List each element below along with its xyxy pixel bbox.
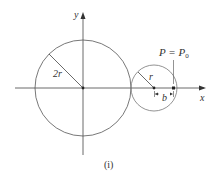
point-label: P = P0 <box>158 46 189 60</box>
x-axis-label: x <box>199 92 205 103</box>
point-subscript: 0 <box>185 52 189 60</box>
offset-label: b <box>162 92 167 103</box>
y-axis-label: y <box>73 9 79 20</box>
small-radius-label: r <box>149 71 153 82</box>
big-radius-label: 2r <box>53 68 62 79</box>
large-center-point <box>82 87 85 90</box>
x-axis-arrow-icon <box>199 86 206 91</box>
small-center-point <box>153 87 156 90</box>
y-axis-arrow-icon <box>81 12 86 19</box>
point-p <box>172 87 175 90</box>
b-arrow-left-icon <box>155 93 158 96</box>
cycloid-diagram: y x 2r r b P = P0 (i) <box>0 0 219 176</box>
figure-caption: (i) <box>104 159 113 171</box>
b-arrow-right-icon <box>170 93 173 96</box>
